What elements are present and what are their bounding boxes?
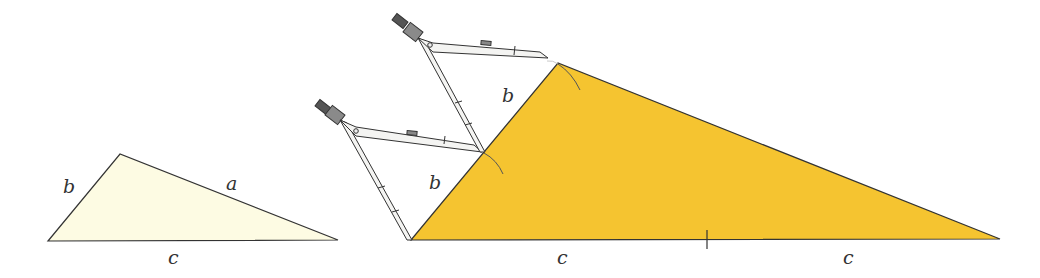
small-triangle [48, 154, 338, 241]
label-big-b-upper: b [502, 84, 514, 106]
label-big-c-left: c [557, 246, 568, 268]
big-triangle [411, 63, 1000, 240]
label-big-c-right: c [843, 246, 854, 268]
construction-diagram: b a c b b c c [0, 0, 1040, 278]
label-small-b: b [63, 175, 75, 197]
label-small-c: c [168, 246, 179, 268]
label-small-a: a [226, 172, 237, 194]
label-big-b-lower: b [429, 171, 441, 193]
arc-faint [547, 61, 558, 64]
